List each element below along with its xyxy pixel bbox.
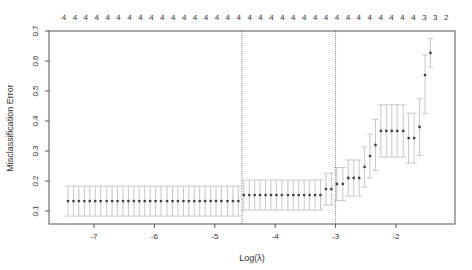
- x-tick-label: -2: [392, 232, 400, 241]
- data-point: [215, 200, 218, 203]
- data-point: [209, 200, 212, 203]
- top-axis-label: 4: [127, 13, 132, 22]
- data-point: [270, 194, 273, 197]
- top-axis-label: 4: [105, 13, 110, 22]
- data-point: [253, 194, 256, 197]
- data-point: [232, 200, 235, 203]
- top-axis-label: 2: [444, 13, 449, 22]
- top-axis-label: 3: [433, 13, 438, 22]
- data-point: [286, 194, 289, 197]
- data-point: [78, 200, 81, 203]
- y-tick-label: 0.6: [31, 55, 40, 67]
- data-point: [374, 144, 377, 147]
- data-point: [390, 130, 393, 133]
- data-point: [154, 200, 157, 203]
- x-tick-label: -4: [272, 232, 280, 241]
- x-tick-label: -7: [90, 232, 98, 241]
- top-axis-label: 4: [313, 13, 318, 22]
- data-point: [171, 200, 174, 203]
- top-axis-label: 3: [422, 13, 427, 22]
- top-axis-label: 4: [160, 13, 165, 22]
- data-point: [352, 177, 355, 180]
- top-axis-label: 4: [368, 13, 373, 22]
- top-axis-label: 4: [95, 13, 100, 22]
- data-point: [358, 177, 361, 180]
- data-point: [88, 200, 91, 203]
- data-point: [116, 200, 119, 203]
- top-axis-label: 4: [302, 13, 307, 22]
- data-point: [105, 200, 108, 203]
- data-point: [396, 130, 399, 133]
- data-point: [122, 200, 125, 203]
- data-point: [72, 200, 75, 203]
- data-point: [187, 200, 190, 203]
- x-tick-label: -6: [151, 232, 159, 241]
- x-tick-label: -3: [332, 232, 340, 241]
- cv-error-plot: -7-6-5-4-3-2 0.10.20.30.40.50.60.7 44444…: [0, 0, 472, 270]
- data-point: [242, 194, 245, 197]
- data-point: [149, 200, 152, 203]
- data-point: [330, 188, 333, 191]
- data-point: [429, 52, 432, 55]
- data-point: [237, 200, 240, 203]
- top-axis-label: 4: [269, 13, 274, 22]
- top-axis-label: 4: [400, 13, 405, 22]
- data-point: [67, 200, 70, 203]
- top-axis-label: 4: [258, 13, 263, 22]
- y-tick-label: 0.7: [31, 25, 40, 37]
- data-point: [275, 194, 278, 197]
- data-point: [341, 183, 344, 186]
- data-point: [314, 194, 317, 197]
- data-point: [319, 194, 322, 197]
- top-axis-label: 4: [389, 13, 394, 22]
- top-axis-labels: 444444444444444444444444444444444332: [62, 13, 449, 22]
- top-axis-label: 4: [291, 13, 296, 22]
- x-axis-label: Log(λ): [239, 253, 265, 263]
- data-point: [166, 200, 169, 203]
- top-axis-label: 4: [84, 13, 89, 22]
- data-point: [385, 130, 388, 133]
- top-axis-label: 4: [335, 13, 340, 22]
- y-tick-label: 0.2: [31, 175, 40, 187]
- x-tick-label: -5: [211, 232, 219, 241]
- y-tick-label: 0.5: [31, 85, 40, 97]
- data-point: [264, 194, 267, 197]
- data-point: [198, 200, 201, 203]
- data-point: [160, 200, 163, 203]
- data-point: [177, 200, 180, 203]
- data-point: [280, 194, 283, 197]
- top-axis-label: 4: [138, 13, 143, 22]
- top-axis-label: 4: [62, 13, 67, 22]
- y-tick-label: 0.4: [31, 115, 40, 127]
- top-axis-label: 4: [226, 13, 231, 22]
- data-point: [193, 200, 196, 203]
- top-axis-label: 4: [280, 13, 285, 22]
- data-point: [259, 194, 262, 197]
- data-point: [297, 194, 300, 197]
- data-point: [292, 194, 295, 197]
- error-bars: [65, 39, 433, 217]
- data-point: [83, 200, 86, 203]
- data-point: [363, 166, 366, 169]
- top-axis-label: 4: [73, 13, 78, 22]
- y-tick-label: 0.3: [31, 145, 40, 157]
- top-axis-label: 4: [346, 13, 351, 22]
- data-point: [413, 137, 416, 140]
- data-point: [182, 200, 185, 203]
- top-axis-label: 4: [182, 13, 187, 22]
- data-point: [132, 200, 135, 203]
- data-point: [418, 126, 421, 129]
- data-point: [369, 155, 372, 158]
- data-point: [347, 177, 350, 180]
- data-point: [99, 200, 102, 203]
- data-point: [138, 200, 141, 203]
- top-axis-label: 4: [357, 13, 362, 22]
- data-point: [402, 130, 405, 133]
- y-axis: 0.10.20.30.40.50.60.7: [31, 25, 49, 217]
- data-point: [111, 200, 114, 203]
- data-point: [380, 130, 383, 133]
- top-axis-label: 4: [236, 13, 241, 22]
- top-axis-label: 4: [193, 13, 198, 22]
- data-point: [220, 200, 223, 203]
- data-point: [143, 200, 146, 203]
